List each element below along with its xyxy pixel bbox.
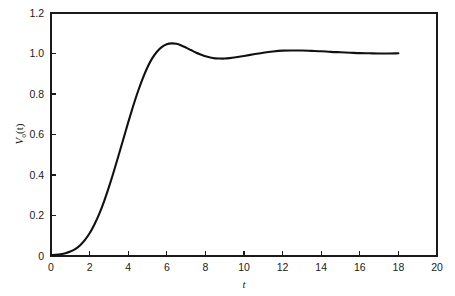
step-response-chart: 02468101214161820 00.20.40.60.81.01.2 t … (0, 0, 455, 296)
x-tick-label: 0 (48, 261, 54, 273)
x-tick-label: 10 (238, 261, 250, 273)
x-tick-label: 2 (87, 261, 93, 273)
x-tick-label: 18 (393, 261, 405, 273)
y-tick-label: 1.2 (29, 7, 44, 19)
y-tick-label: 0.6 (29, 128, 44, 140)
x-tick-label: 6 (164, 261, 170, 273)
figure-container: 02468101214161820 00.20.40.60.81.01.2 t … (0, 0, 455, 296)
y-tick-label: 0.4 (29, 169, 44, 181)
x-tick-label: 20 (431, 261, 443, 273)
y-tick-label: 0.8 (29, 88, 44, 100)
y-axis-argument: (t) (13, 123, 26, 134)
y-tick-label: 0 (38, 250, 44, 262)
y-tick-label: 1.0 (29, 47, 44, 59)
y-tick-label: 0.2 (29, 209, 44, 221)
x-tick-label: 14 (315, 261, 327, 273)
x-tick-label: 4 (125, 261, 131, 273)
x-tick-label: 12 (277, 261, 289, 273)
x-tick-label: 16 (354, 261, 366, 273)
x-tick-label: 8 (202, 261, 208, 273)
